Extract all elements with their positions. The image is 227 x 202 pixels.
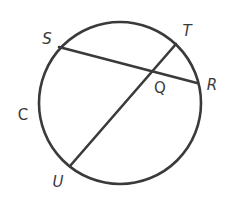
circle-c — [39, 22, 201, 184]
circle-chords-diagram: S T R Q C U — [0, 0, 227, 202]
chord-sr — [59, 47, 197, 83]
label-point-t: T — [182, 24, 191, 39]
label-point-s: S — [42, 32, 52, 47]
label-circle-c: C — [18, 108, 28, 123]
diagram-figure — [0, 0, 227, 202]
label-point-q: Q — [154, 81, 166, 96]
chord-tu — [70, 44, 176, 166]
label-point-r: R — [207, 78, 217, 93]
label-point-u: U — [53, 175, 64, 190]
